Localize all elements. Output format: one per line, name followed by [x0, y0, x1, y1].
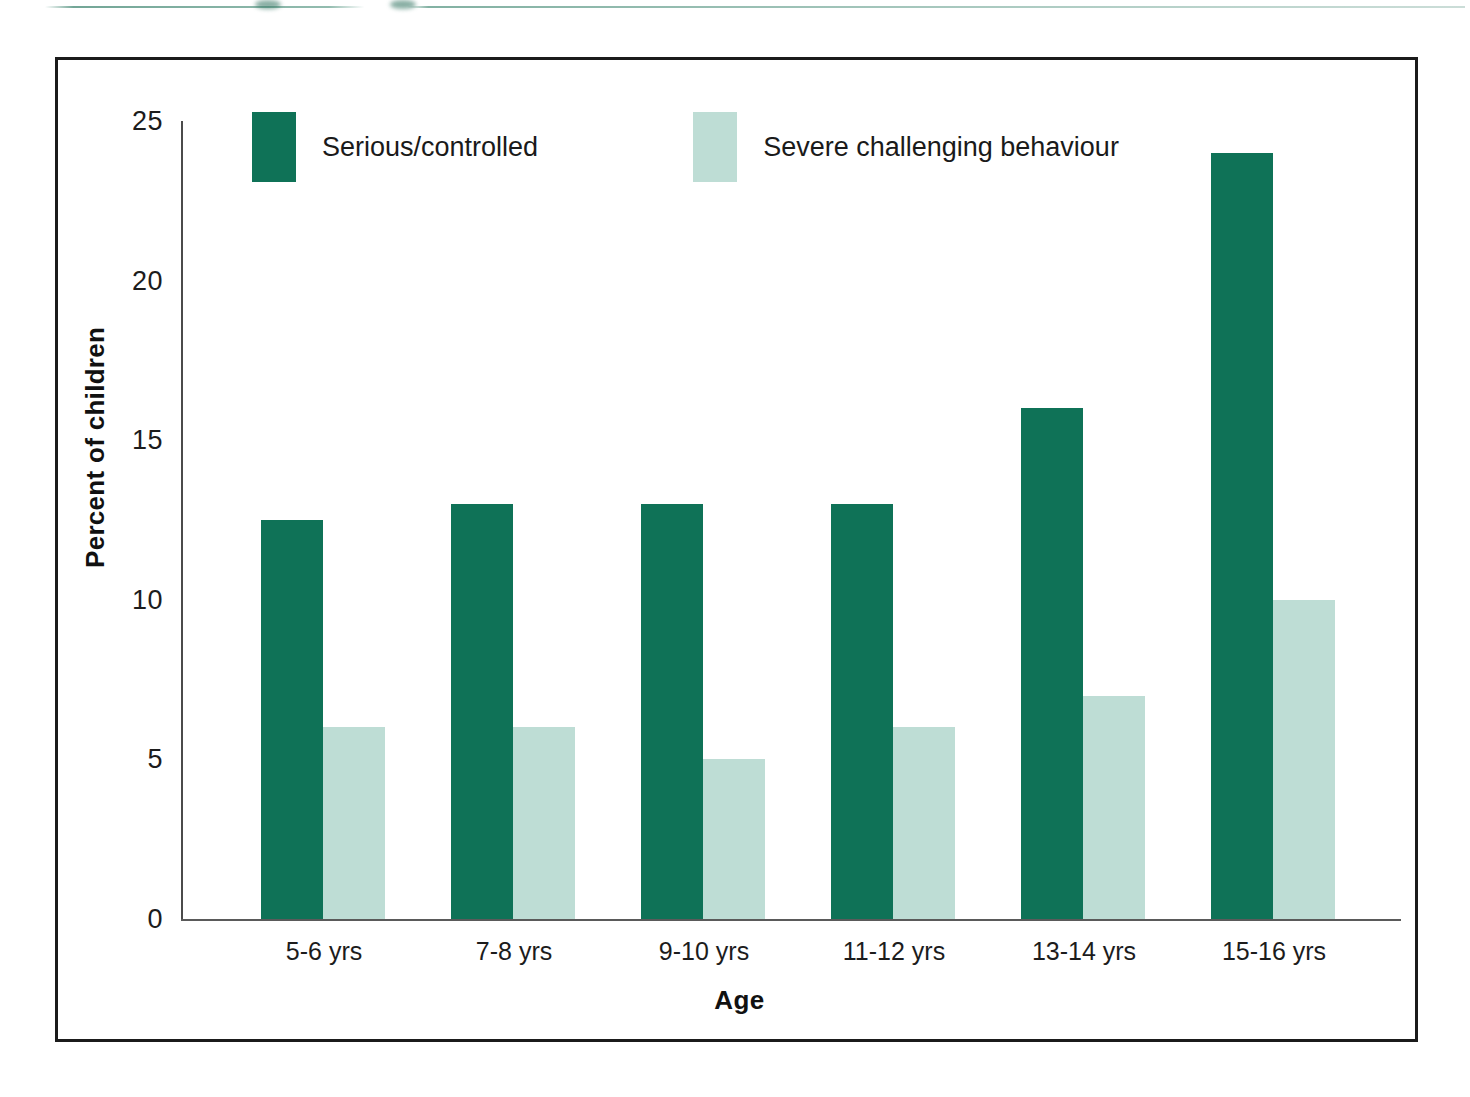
page-top-rule-mark-right [390, 0, 416, 9]
y-axis-tick-label: 10 [132, 584, 163, 615]
y-axis-tick-label: 20 [132, 265, 163, 296]
y-axis-tick-label: 5 [147, 744, 163, 775]
y-axis-tick-label: 15 [132, 425, 163, 456]
x-axis-category-label: 13-14 yrs [989, 937, 1179, 966]
bar [1083, 696, 1145, 919]
bar [1021, 408, 1083, 919]
bar-group: 9-10 yrs [641, 121, 765, 919]
bar [1211, 153, 1273, 919]
bar-group: 5-6 yrs [261, 121, 385, 919]
x-axis-category-label: 9-10 yrs [609, 937, 799, 966]
x-axis-title: Age [58, 985, 1421, 1016]
bar-group: 11-12 yrs [831, 121, 955, 919]
bar [1273, 600, 1335, 919]
bar-group: 15-16 yrs [1211, 121, 1335, 919]
y-axis-tick-label: 0 [147, 904, 163, 935]
bar [641, 504, 703, 919]
bar [261, 520, 323, 919]
y-axis-tick-label: 25 [132, 106, 163, 137]
x-axis-category-label: 11-12 yrs [799, 937, 989, 966]
bar [831, 504, 893, 919]
bar [893, 727, 955, 919]
plot-area: 0510152025 5-6 yrs7-8 yrs9-10 yrs11-12 y… [181, 121, 1401, 919]
bar [451, 504, 513, 919]
bar-group: 13-14 yrs [1021, 121, 1145, 919]
figure-frame: Serious/controlled Severe challenging be… [55, 57, 1418, 1042]
x-axis-category-label: 15-16 yrs [1179, 937, 1369, 966]
y-axis-line [181, 121, 183, 921]
bar [513, 727, 575, 919]
bar-group: 7-8 yrs [451, 121, 575, 919]
x-axis-category-label: 5-6 yrs [229, 937, 419, 966]
page-top-rule-mark-left [255, 0, 281, 9]
bar [323, 727, 385, 919]
x-axis-line [181, 919, 1401, 921]
bar [703, 759, 765, 919]
x-axis-category-label: 7-8 yrs [419, 937, 609, 966]
y-axis-title: Percent of children [80, 327, 111, 568]
